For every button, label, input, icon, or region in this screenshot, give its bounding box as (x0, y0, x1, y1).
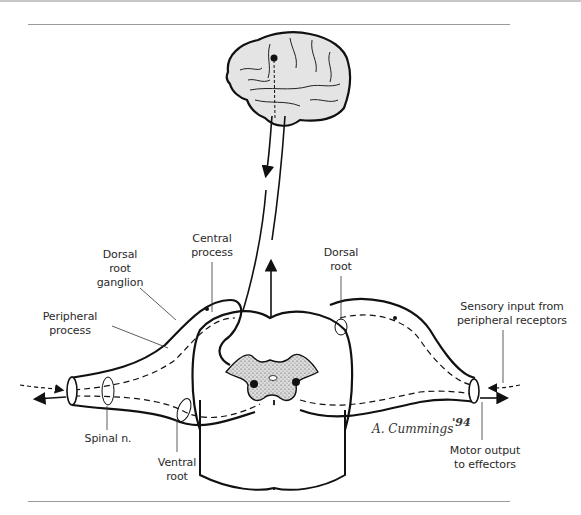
label-sensory-input: Sensory input from peripheral receptors (452, 300, 572, 328)
artist-signature-year: '94 (452, 416, 471, 429)
label-central-process: Central process (182, 232, 242, 260)
label-motor-output: Motor output to effectors (440, 444, 530, 472)
spinal-cord (193, 311, 353, 490)
label-spinal-nerve: Spinal n. (78, 432, 138, 446)
label-dorsal-root-ganglion: Dorsal root ganglion (90, 248, 150, 290)
brain-icon (227, 32, 350, 126)
label-ventral-root: Ventral root (152, 456, 202, 484)
artist-signature: A. Cummings (372, 422, 453, 436)
label-dorsal-root: Dorsal root (316, 246, 366, 274)
label-peripheral-process: Peripheral process (30, 310, 110, 338)
